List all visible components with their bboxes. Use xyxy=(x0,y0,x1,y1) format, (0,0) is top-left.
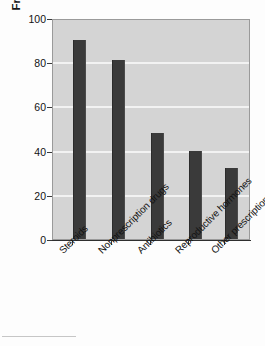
bar-chart-figure: Frequency of detection (%) 100 80 60 40 … xyxy=(0,0,265,346)
y-tick-label: 0 xyxy=(24,235,46,245)
bar xyxy=(73,40,86,239)
scan-artifact-line xyxy=(2,336,76,337)
y-tick-label: 60 xyxy=(24,102,46,112)
y-tick-label: 20 xyxy=(24,191,46,201)
y-tick-label: 40 xyxy=(24,147,46,157)
bar xyxy=(112,60,125,239)
y-tick-label: 80 xyxy=(24,58,46,68)
y-axis-tick-labels: 100 80 60 40 20 0 xyxy=(24,0,46,346)
y-axis-label: Frequency of detection (%) xyxy=(6,0,26,44)
y-tick-label: 100 xyxy=(24,14,46,24)
